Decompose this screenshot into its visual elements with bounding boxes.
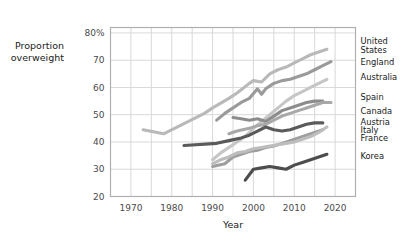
y-tick-label: 60 <box>93 83 105 93</box>
x-tick-label: 2010 <box>283 203 306 213</box>
y-tick-label: 50 <box>93 110 105 120</box>
series-label-united-states: States <box>361 45 387 55</box>
line-chart: 20304050607080%197019801990200020102020Y… <box>0 0 415 239</box>
series-label-canada: Canada <box>361 106 393 116</box>
y-tick-label: 40 <box>93 137 105 147</box>
series-label-england: England <box>361 57 395 67</box>
x-tick-label: 2000 <box>242 203 265 213</box>
y-axis-title-line2: overweight <box>11 52 64 63</box>
y-tick-label: 70 <box>93 55 105 65</box>
x-tick-label: 1990 <box>201 203 224 213</box>
x-axis-title: Year <box>222 219 243 230</box>
series-label-korea: Korea <box>361 151 385 161</box>
x-tick-label: 2020 <box>324 203 347 213</box>
series-label-australia: Australia <box>361 72 398 82</box>
x-tick-label: 1980 <box>160 203 183 213</box>
x-tick-label: 1970 <box>119 203 142 213</box>
y-tick-label: 80% <box>84 28 104 38</box>
y-axis-title-line1: Proportion <box>15 40 64 51</box>
y-tick-label: 20 <box>93 192 105 202</box>
chart-figure: 20304050607080%197019801990200020102020Y… <box>0 0 415 239</box>
series-label-france: France <box>361 133 389 143</box>
series-label-spain: Spain <box>361 92 384 102</box>
y-tick-label: 30 <box>93 164 105 174</box>
